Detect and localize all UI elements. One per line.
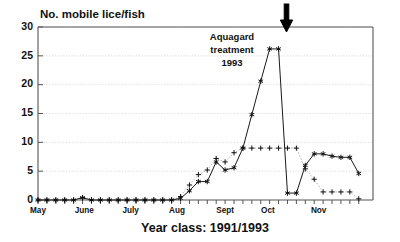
y-tick-label: 25 (21, 49, 33, 61)
down-arrow-icon (280, 4, 292, 32)
data-point-plus (267, 146, 272, 151)
data-point-plus (321, 189, 326, 194)
x-axis-title: Year class: 1991/1993 (141, 221, 269, 235)
series-line (38, 49, 359, 200)
x-tick-label: June (75, 206, 95, 215)
x-tick-label: Nov (311, 206, 327, 215)
data-point-plus (276, 146, 281, 151)
lice-count-line-chart: No. mobile lice/fish 051015202530 MayJun… (0, 0, 400, 242)
data-point-plus (329, 189, 334, 194)
data-point-plus (205, 167, 210, 172)
y-tick-label: 0 (27, 193, 33, 205)
data-point-plus (249, 146, 254, 151)
chart-title: No. mobile lice/fish (40, 8, 145, 20)
data-point-asterisk (258, 79, 263, 84)
aquagard-annotation: Aquagard treatment 1993 (210, 4, 293, 68)
x-tick-label: Oct (261, 206, 275, 215)
data-point-plus (338, 189, 343, 194)
data-point-plus (294, 146, 299, 151)
y-tick-label: 5 (27, 164, 33, 176)
y-tick-label: 20 (21, 77, 33, 89)
x-axis-ticks (38, 200, 359, 204)
data-point-plus (258, 146, 263, 151)
data-point-plus (231, 150, 236, 155)
data-point-plus (312, 177, 317, 182)
x-tick-label: Aug (169, 206, 185, 215)
series-sessile-lice (35, 146, 361, 203)
gridlines (38, 27, 373, 171)
x-tick-label: May (30, 206, 46, 215)
y-tick-label: 15 (21, 106, 33, 118)
annotation-line-2: treatment (210, 44, 254, 55)
chart-container: No. mobile lice/fish 051015202530 MayJun… (0, 0, 400, 242)
data-point-plus (285, 146, 290, 151)
data-point-asterisk (356, 171, 361, 176)
plot-frame (38, 27, 373, 200)
x-axis-labels: MayJuneJulyAugSeptOctNov (30, 206, 327, 215)
annotation-line-1: Aquagard (210, 31, 255, 42)
annotation-line-3: 1993 (221, 57, 242, 68)
x-tick-label: July (122, 206, 139, 215)
data-point-asterisk (249, 112, 254, 117)
y-tick-label: 30 (21, 20, 33, 32)
y-tick-label: 10 (21, 135, 33, 147)
x-tick-label: Sept (216, 206, 234, 215)
y-axis-ticks: 051015202530 (21, 20, 43, 205)
